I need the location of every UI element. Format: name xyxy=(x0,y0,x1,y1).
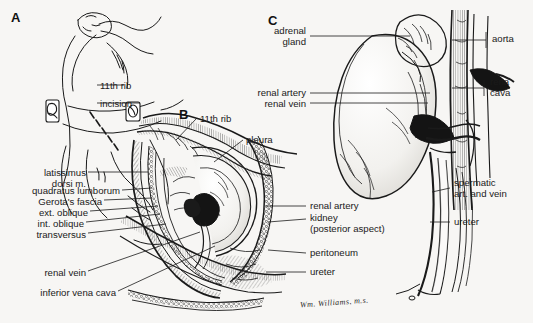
panel-letter-a: A xyxy=(11,11,20,24)
panel-c-artwork xyxy=(334,10,514,300)
label-b-11th-rib: 11th rib xyxy=(200,113,231,124)
label-c-renal-artery: renal artery xyxy=(204,87,306,98)
label-b-renal-vein: renal vein xyxy=(0,267,86,278)
anatomy-figure: A B C 11th rib incision latissimus dorsi… xyxy=(0,0,533,323)
label-b-pleura: pleura xyxy=(246,134,273,145)
label-b-quadratus-lumborum: quadratus lumborum xyxy=(0,185,120,196)
label-b-renal-artery: renal artery xyxy=(310,200,359,211)
label-a-11th-rib: 11th rib xyxy=(100,80,131,91)
label-b-ureter: ureter xyxy=(310,266,335,277)
label-c-renal-vein: renal vein xyxy=(204,98,306,109)
label-a-incision: incision xyxy=(100,98,132,109)
label-c-ureter: ureter xyxy=(454,216,479,227)
label-b-peritoneum: peritoneum xyxy=(310,247,358,258)
label-b-int-oblique: int. oblique xyxy=(0,218,84,229)
label-c-rena-cava: rena cava xyxy=(490,76,510,98)
label-b-kidney-posterior-aspect: kidney (posterior aspect) xyxy=(310,212,385,234)
label-c-aorta: aorta xyxy=(492,33,514,44)
label-b-gerotas-fascia: Gerota's fascia xyxy=(0,196,102,207)
label-b-ext-oblique: ext. oblique xyxy=(0,207,88,218)
panel-letter-b: B xyxy=(179,108,188,121)
label-c-spermatic-artery-and-vein: spermatic art. and vein xyxy=(454,177,507,199)
label-b-inferior-vena-cava: inferior vena cava xyxy=(0,287,116,298)
label-c-adrenal-gland: adrenal gland xyxy=(204,25,306,47)
label-b-transversus: transversus xyxy=(0,229,86,240)
